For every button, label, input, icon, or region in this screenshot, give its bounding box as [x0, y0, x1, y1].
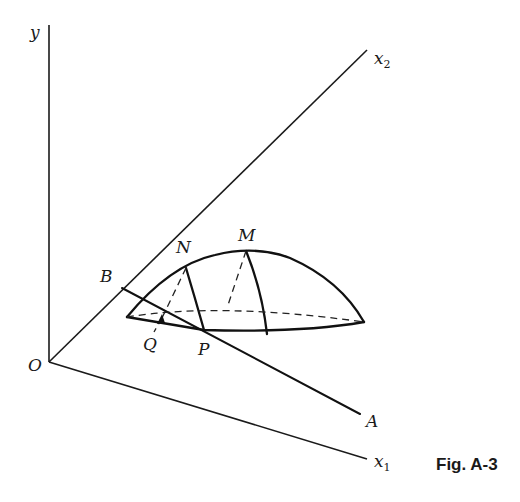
curve-M [246, 251, 267, 334]
label-x1: x1 [374, 451, 391, 474]
label-Q: Q [143, 334, 157, 354]
curve-N-P [186, 268, 204, 330]
label-P: P [197, 339, 210, 359]
label-x2: x2 [374, 48, 391, 71]
label-N: N [175, 237, 192, 257]
hidden-M-drop [228, 251, 246, 305]
label-A: A [364, 411, 378, 431]
label-B: B [99, 266, 113, 286]
figure-a3-diagram: y x2 x1 O A B N M P Q Fig. A-3 [0, 0, 520, 502]
x1-axis [49, 362, 367, 459]
surface-top-edge [127, 251, 364, 322]
label-y: y [29, 22, 40, 42]
figure-caption: Fig. A-3 [436, 455, 498, 474]
label-M: M [237, 225, 256, 245]
x2-axis [49, 50, 367, 362]
label-origin: O [28, 355, 42, 375]
